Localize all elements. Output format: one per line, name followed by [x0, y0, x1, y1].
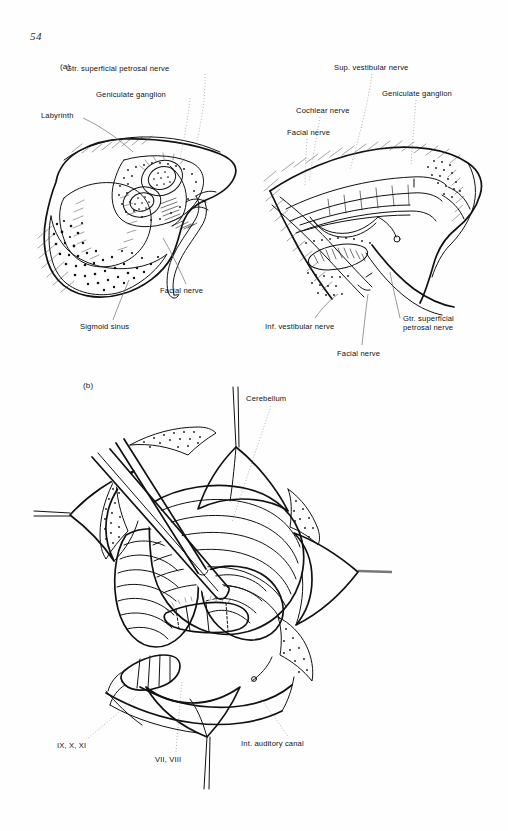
- leaders-figure-b: [0, 0, 508, 831]
- textbook-page: 54 (a): [0, 0, 508, 831]
